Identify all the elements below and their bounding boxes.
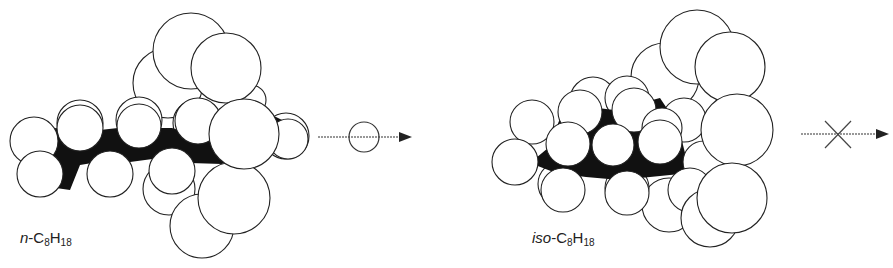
iso-octane-model bbox=[492, 10, 773, 247]
iso-octane-label: iso-C8H18 bbox=[532, 229, 595, 248]
n-octane-label: n-C8H18 bbox=[20, 229, 72, 248]
n-octane-diffusion-arrow bbox=[318, 122, 412, 152]
n-octane-model bbox=[10, 13, 309, 258]
molecular-diagram bbox=[0, 0, 893, 268]
iso-octane-blocked-arrow bbox=[801, 121, 889, 148]
